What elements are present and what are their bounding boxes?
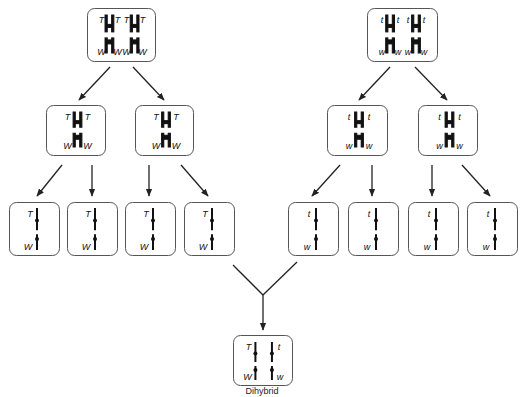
parent-cell-ttww: ttwwttww (368, 9, 438, 62)
chromatid (130, 15, 132, 32)
chromatid (392, 15, 394, 32)
allele-label-bottom: w (483, 242, 490, 252)
allele-label-bottom: w (277, 372, 284, 382)
centromere-icon (447, 135, 451, 139)
cell-outline (409, 203, 459, 256)
centromere-icon (164, 135, 168, 139)
allele-label-bottom: w (364, 242, 371, 252)
gamete-cell: tw (409, 203, 459, 256)
arrow-icon (133, 67, 164, 100)
cell-outline (68, 203, 118, 256)
centromere-icon (132, 24, 136, 27)
chromatid (168, 112, 170, 127)
centromere-icon (132, 40, 136, 44)
locus-dot-icon (35, 219, 39, 223)
locus-dot-icon (210, 219, 214, 223)
chromatid (445, 112, 447, 127)
cell-outline (289, 203, 339, 256)
locus-dot-icon (151, 237, 155, 241)
gamete-cell: tw (468, 203, 518, 256)
centromere-icon (75, 135, 79, 139)
allele-label-bottom: w (379, 47, 386, 57)
locus-dot-icon (434, 219, 438, 223)
locus-dot-icon (434, 237, 438, 241)
locus-dot-icon (374, 219, 378, 223)
allele-label-bottom: W (97, 47, 107, 57)
chromatid (355, 112, 357, 127)
allele-label-bottom: W (138, 47, 148, 57)
locus-dot-icon (253, 368, 257, 372)
chromatid (386, 15, 388, 32)
arrow-icon (37, 165, 62, 196)
chromatid (112, 15, 114, 32)
chromatid (418, 15, 420, 32)
chromatid (452, 112, 454, 127)
centromere-icon (447, 121, 451, 124)
centromere-icon (414, 24, 418, 27)
cell-outline (185, 203, 235, 256)
gamete-cell: TW (126, 203, 176, 256)
allele-label-bottom: w (456, 141, 463, 151)
allele-label-bottom: w (346, 141, 353, 151)
cell-outline (136, 106, 194, 156)
meiosis-i-cell: ttww (419, 106, 478, 156)
dihybrid-zygote-cell: TWtw (234, 336, 293, 386)
chromatid (105, 15, 107, 32)
fusion-line (263, 262, 297, 295)
arrow-icon (415, 67, 447, 100)
locus-dot-icon (151, 219, 155, 223)
cell-outline (349, 203, 399, 256)
cell-outline (10, 203, 60, 256)
arrow-icon (462, 165, 490, 196)
centromere-icon (388, 40, 392, 44)
dihybrid-caption: Dihybrid (245, 386, 278, 396)
locus-dot-icon (35, 237, 39, 241)
locus-dot-icon (270, 368, 274, 372)
allele-label-bottom: w (405, 47, 412, 57)
centromere-icon (75, 121, 79, 124)
fusion-line (233, 265, 263, 295)
chromatid (162, 112, 164, 127)
gamete-cell: TW (185, 203, 235, 256)
locus-dot-icon (374, 237, 378, 241)
allele-label-bottom: w (304, 242, 311, 252)
arrow-icon (79, 67, 110, 100)
locus-dot-icon (493, 219, 497, 223)
gamete-cell: TW (68, 203, 118, 256)
locus-dot-icon (93, 219, 97, 223)
gamete-cell: tw (349, 203, 399, 256)
allele-label-bottom: W (243, 372, 253, 382)
locus-dot-icon (93, 237, 97, 241)
locus-dot-icon (314, 219, 318, 223)
chromatid (412, 15, 414, 32)
cell-outline (328, 106, 388, 156)
allele-label-bottom: w (421, 47, 428, 57)
parent-cell-TTWW: TTWWTTWW (88, 9, 156, 62)
locus-dot-icon (253, 351, 257, 355)
centromere-icon (164, 121, 168, 124)
locus-dot-icon (270, 351, 274, 355)
dihybrid-cross-diagram: TTWWTTWWttwwttwwTTWWTTWWttwwttwwTWTWTWTW… (0, 0, 525, 397)
cell-outline (419, 106, 478, 156)
allele-label-bottom: W (122, 47, 132, 57)
arrow-icon (181, 165, 208, 196)
allele-label-bottom: w (366, 141, 373, 151)
allele-label-bottom: w (436, 141, 443, 151)
gamete-cell: tw (289, 203, 339, 256)
locus-dot-icon (314, 237, 318, 241)
chromatid (361, 112, 363, 127)
chromatid (137, 15, 139, 32)
allele-label-bottom: w (395, 47, 402, 57)
centromere-icon (107, 40, 111, 44)
gamete-cell: TW (10, 203, 60, 256)
locus-dot-icon (210, 237, 214, 241)
centromere-icon (388, 24, 392, 27)
cell-outline (126, 203, 176, 256)
centromere-icon (357, 135, 361, 139)
locus-dot-icon (493, 237, 497, 241)
centromere-icon (107, 24, 111, 27)
chromatid (73, 112, 75, 127)
chromatid (80, 112, 82, 127)
allele-label-bottom: w (424, 242, 431, 252)
arrow-icon (359, 67, 390, 100)
